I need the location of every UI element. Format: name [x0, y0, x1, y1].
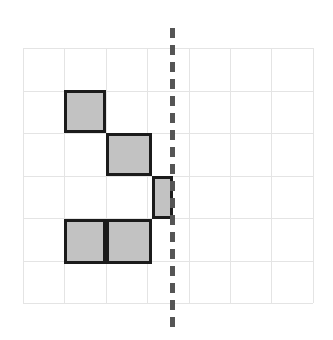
grid-line-horizontal-2: [23, 133, 313, 134]
shaded-cell-cell-b: [106, 133, 152, 176]
figure-root: [0, 0, 333, 340]
shaded-cell-cell-d: [64, 219, 106, 264]
shaded-cell-cell-e: [106, 219, 152, 264]
grid-line-horizontal-0: [23, 48, 313, 49]
line-of-symmetry-dashed: [170, 28, 175, 328]
grid-line-vertical-7: [313, 48, 314, 303]
shaded-cell-cell-a: [64, 90, 106, 133]
grid-line-horizontal-6: [23, 303, 313, 304]
